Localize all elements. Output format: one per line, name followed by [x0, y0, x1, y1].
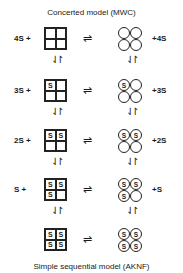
subunit-circles	[118, 27, 143, 52]
square-cell	[56, 28, 67, 39]
square-cell: S	[56, 179, 67, 190]
circle-subunit	[118, 27, 130, 39]
subunit-circles: SSS	[118, 178, 143, 203]
subunit-square	[44, 27, 67, 50]
circle-subunit: S	[118, 240, 130, 252]
circle-subunit	[130, 79, 142, 91]
square-cell: S	[56, 240, 67, 251]
circle-subunit	[130, 91, 142, 103]
aknf-title: Simple sequential model (AKNF)	[0, 262, 183, 271]
circle-subunit: S	[118, 129, 130, 141]
subunit-square: S	[44, 79, 67, 102]
vertical-equilibrium-icon: ⇃↾	[51, 55, 61, 65]
circle-subunit: S	[118, 178, 130, 190]
vertical-equilibrium-icon: ⇃↾	[126, 157, 136, 167]
left-label: 2S +	[14, 136, 31, 145]
circle-subunit: S	[118, 190, 130, 202]
square-cell	[56, 91, 67, 102]
square-cell: S	[56, 229, 67, 240]
right-label: +S	[152, 185, 162, 194]
circle-subunit	[118, 91, 130, 103]
square-cell	[56, 141, 67, 152]
left-label: 3S +	[14, 86, 31, 95]
circle-subunit	[118, 39, 130, 51]
square-cell: S	[45, 190, 56, 201]
left-label: S +	[14, 185, 26, 194]
subunit-square: SS	[44, 129, 67, 152]
square-cell: S	[45, 240, 56, 251]
circle-subunit	[118, 141, 130, 153]
equilibrium-arrow-icon: ⇌	[83, 234, 92, 245]
circle-subunit: S	[130, 240, 142, 252]
circle-subunit: S	[130, 129, 142, 141]
vertical-equilibrium-icon: ⇃↾	[126, 107, 136, 117]
equilibrium-arrow-icon: ⇌	[83, 33, 92, 44]
circle-subunit: S	[130, 228, 142, 240]
subunit-circles: SSSS	[118, 228, 143, 253]
equilibrium-arrow-icon: ⇌	[83, 135, 92, 146]
subunit-square: SSSS	[44, 228, 67, 251]
subunit-square: SSS	[44, 178, 67, 201]
square-cell: S	[45, 80, 56, 91]
vertical-equilibrium-icon: ⇃↾	[51, 206, 61, 216]
vertical-equilibrium-icon: ⇃↾	[51, 107, 61, 117]
square-cell	[45, 91, 56, 102]
mwc-title: Concerted model (MWC)	[0, 8, 183, 17]
vertical-equilibrium-icon: ⇃↾	[126, 206, 136, 216]
square-cell	[45, 39, 56, 50]
vertical-equilibrium-icon: ⇃↾	[51, 157, 61, 167]
circle-subunit	[130, 190, 142, 202]
square-cell	[45, 28, 56, 39]
square-cell: S	[45, 229, 56, 240]
square-cell	[56, 190, 67, 201]
square-cell: S	[45, 130, 56, 141]
right-label: +3S	[152, 86, 166, 95]
circle-subunit	[130, 141, 142, 153]
right-label: +2S	[152, 136, 166, 145]
circle-subunit	[130, 39, 142, 51]
square-cell: S	[45, 179, 56, 190]
square-cell: S	[56, 130, 67, 141]
circle-subunit	[130, 27, 142, 39]
subunit-circles: S	[118, 79, 143, 104]
subunit-circles: SS	[118, 129, 143, 154]
equilibrium-arrow-icon: ⇌	[83, 184, 92, 195]
circle-subunit: S	[130, 178, 142, 190]
equilibrium-arrow-icon: ⇌	[83, 85, 92, 96]
right-label: +4S	[152, 34, 166, 43]
left-label: 4S +	[14, 34, 31, 43]
circle-subunit: S	[118, 228, 130, 240]
circle-subunit: S	[118, 79, 130, 91]
square-cell	[56, 80, 67, 91]
vertical-equilibrium-icon: ⇃↾	[126, 55, 136, 65]
square-cell	[45, 141, 56, 152]
square-cell	[56, 39, 67, 50]
